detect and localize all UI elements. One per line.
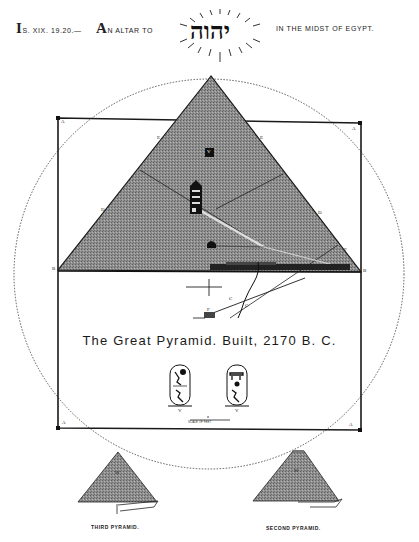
second-pyramid-caption: SECOND PYRAMID. [266,525,321,531]
subterranean-chamber [204,312,215,318]
cartouche-label-left: V [178,408,182,413]
cartouche-label-right: V [235,408,239,413]
base-label-left: B [52,266,55,271]
diagram-title: The Great Pyramid. Built, 2170 B. C. [0,333,419,348]
edge-label: E [260,135,263,140]
edge-label: C [245,303,248,308]
edge-label: F [207,307,210,312]
edge-label: C [229,296,232,301]
chamber-label: V [207,149,211,154]
edge-label: D [101,207,105,212]
great-pyramid-diagram [0,0,419,542]
edge-label: F [344,247,347,252]
corner-label-top-right: A [352,126,356,131]
corner-label-bottom-left: A [62,420,66,425]
third-pyramid-label: W [115,470,120,475]
edge-label: D [318,210,322,215]
base-label-right: B [363,268,366,273]
corner-label-bottom-right: A [349,422,353,427]
second-pyramid-label: W [294,468,299,473]
second-pyramid [253,451,339,501]
third-pyramid [78,452,157,502]
scale-label: SCALE OF FEET [188,420,211,424]
edge-label: E [157,135,160,140]
grand-gallery-stack [190,180,202,214]
third-pyramid-caption: THIRD PYRAMID. [91,524,139,530]
crosshair-icon [186,279,222,296]
corner-label-top-left: A [61,119,65,124]
